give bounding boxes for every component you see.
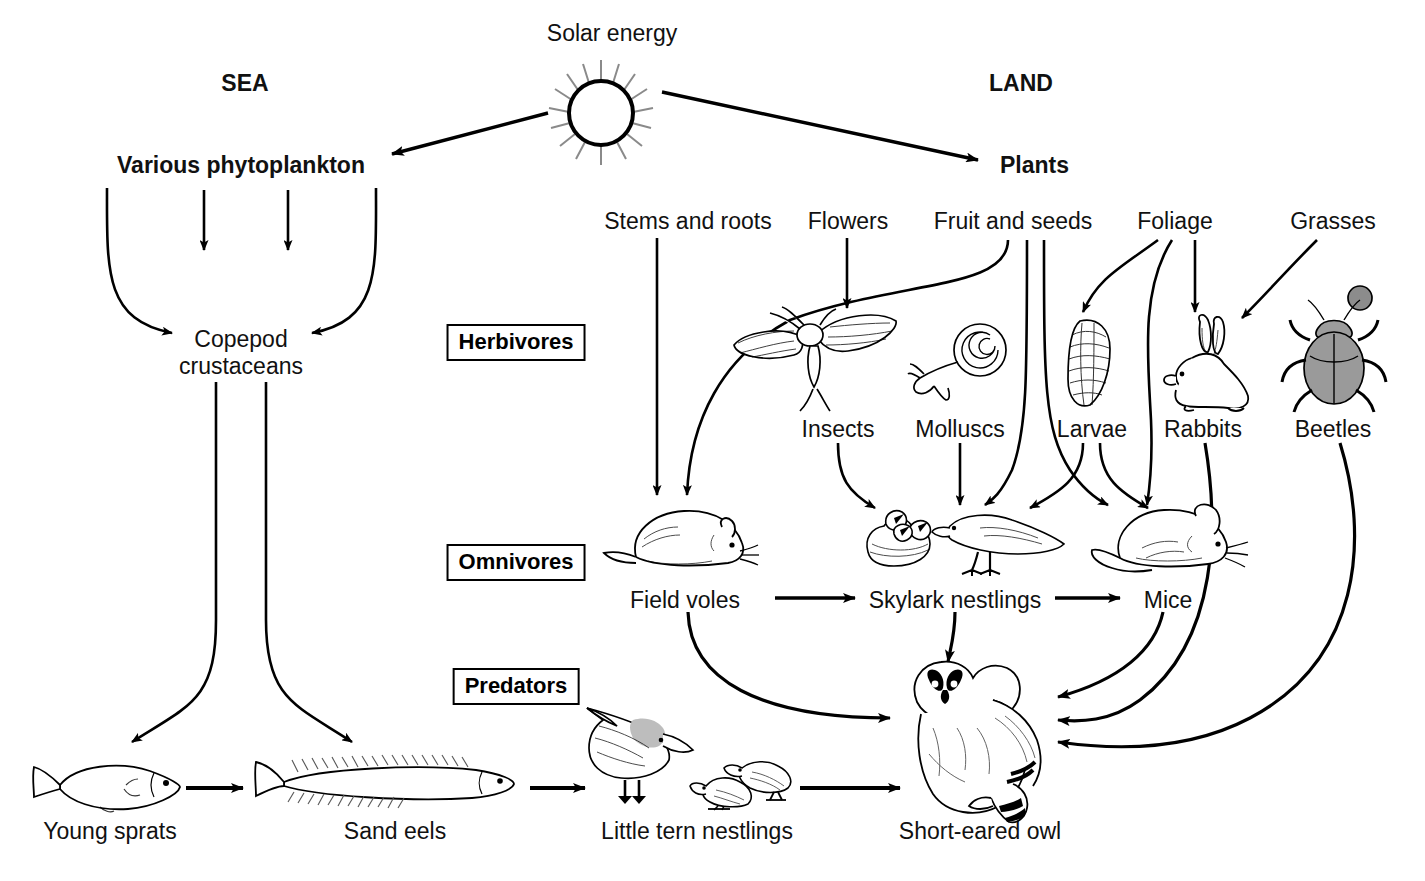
beetle-icon [1274,284,1392,414]
food-web-diagram: Solar energy SEA LAND Various phytoplank… [0,0,1425,881]
various-phytoplankton-label: Various phytoplankton [117,152,365,178]
plant-part-stems-and-roots: Stems and roots [604,208,771,234]
edge-phyto-right-to-copepod [312,188,376,333]
sand-eel-fish-icon [250,752,520,812]
edge-copepod-to-sand-eels [266,382,352,742]
copepod-crustaceans-label: Copepod crustaceans [179,326,303,380]
copepod-line-1: Copepod [179,326,303,353]
edge-mice-to-owl [1058,612,1163,697]
plant-part-foliage: Foliage [1137,208,1212,234]
edge-copepod-to-young-sprats [132,382,216,742]
edge-larvae-to-mice [1100,443,1148,508]
winged-insect-icon [730,305,900,413]
mouse-icon [1090,500,1250,578]
omnivore-field-voles-label: Field voles [630,587,740,613]
omnivore-mice-label: Mice [1144,587,1193,613]
copepod-line-2: crustaceans [179,353,303,380]
skylark-nest-icon [850,500,1070,578]
sea-sand-eels-label: Sand eels [344,818,446,844]
snail-icon [908,322,1018,404]
plant-part-fruit-and-seeds: Fruit and seeds [934,208,1093,234]
herbivore-beetles-label: Beetles [1295,416,1372,442]
land-label: LAND [989,70,1053,96]
sun-icon [542,58,660,170]
edge-phyto-left-to-copepod [107,188,172,333]
sea-label: SEA [221,70,268,96]
herbivore-larvae-label: Larvae [1057,416,1127,442]
herbivore-rabbits-label: Rabbits [1164,416,1242,442]
sprat-fish-icon [28,755,188,817]
sea-young-sprats-label: Young sprats [43,818,176,844]
herbivore-insects-label: Insects [802,416,875,442]
edge-beetles-to-owl [1058,443,1355,747]
trophic-level-herbivores: Herbivores [447,324,586,361]
edge-insects-to-skylark [838,443,875,508]
edge-sun-to-phytoplankton [392,113,548,154]
trophic-level-omnivores: Omnivores [447,544,586,581]
vole-icon [600,505,760,575]
rabbit-icon [1152,312,1262,414]
solar-energy-label: Solar energy [547,20,677,46]
plant-part-flowers: Flowers [808,208,889,234]
edge-sun-to-plants [662,92,978,160]
edge-field-voles-to-owl [688,612,890,718]
trophic-level-predators: Predators [453,668,580,705]
plant-part-grasses: Grasses [1290,208,1376,234]
tern-and-chicks-icon [575,700,705,805]
edge-larvae-to-skylark [1030,443,1083,508]
grub-larva-icon [1060,315,1122,411]
plants-label: Plants [1000,152,1069,178]
omnivore-skylark-nestlings-label: Skylark nestlings [869,587,1042,613]
tern-chicks-icon [690,758,800,810]
predator-little-tern-nestlings-label: Little tern nestlings [601,818,793,844]
edge-skylark-to-owl [948,612,955,662]
edge-foliage-to-larvae [1083,240,1158,312]
herbivore-molluscs-label: Molluscs [915,416,1004,442]
owl-icon [895,658,1055,828]
